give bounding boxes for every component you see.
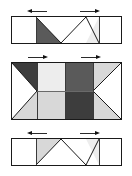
figure-canvas xyxy=(0,0,132,176)
bottom-cell-3 xyxy=(61,139,86,165)
triangle-light xyxy=(86,17,99,43)
top-divider-2 xyxy=(99,17,100,43)
top-panel-marker-right xyxy=(80,9,100,14)
triangle-dark xyxy=(36,17,61,43)
middle-panel-marker-left xyxy=(28,55,48,60)
arrowhead-left-icon xyxy=(27,9,32,13)
middle-cell-left-outer xyxy=(12,63,37,119)
top-cell-3 xyxy=(61,17,86,43)
middle-horizontal-divider xyxy=(37,91,93,92)
triangle-very-light xyxy=(86,139,99,165)
marker-shaft xyxy=(31,11,47,12)
marker-shaft xyxy=(31,133,47,134)
bottom-panel-marker-right xyxy=(80,131,100,136)
arrowhead-right-icon xyxy=(96,55,101,59)
bottom-panel-marker-left xyxy=(27,131,47,136)
bottom-panel xyxy=(11,138,122,166)
bottom-divider-2 xyxy=(99,139,100,165)
top-cell-2 xyxy=(36,17,61,43)
arrowhead-right-icon xyxy=(95,131,100,135)
middle-cell-col2-bottom xyxy=(37,91,65,119)
bottom-cell-1 xyxy=(12,139,36,165)
bottom-divider-1 xyxy=(36,139,37,165)
top-panel-marker-left xyxy=(27,9,47,14)
top-divider-1 xyxy=(36,17,37,43)
middle-cell-right-outer xyxy=(93,63,121,119)
arrowhead-right-icon xyxy=(95,9,100,13)
top-cell-1 xyxy=(12,17,36,43)
arrowhead-left-icon xyxy=(27,131,32,135)
bottom-cell-5 xyxy=(99,139,121,165)
marker-shaft xyxy=(80,11,96,12)
middle-cell-col2-top xyxy=(37,63,65,91)
bottom-cell-2 xyxy=(36,139,61,165)
middle-panel xyxy=(11,62,122,120)
top-cell-4 xyxy=(86,17,99,43)
middle-panel-marker-right xyxy=(81,55,101,60)
middle-divider-3 xyxy=(93,63,94,119)
top-panel xyxy=(11,16,122,44)
top-cell-5 xyxy=(99,17,121,43)
marker-shaft xyxy=(80,133,96,134)
marker-shaft xyxy=(28,57,44,58)
middle-cell-col3-bottom xyxy=(65,91,93,119)
marker-shaft xyxy=(81,57,97,58)
bottom-cell-4 xyxy=(86,139,99,165)
arrowhead-right-icon xyxy=(43,55,48,59)
middle-cell-col3-top xyxy=(65,63,93,91)
triangle-light xyxy=(36,139,61,165)
